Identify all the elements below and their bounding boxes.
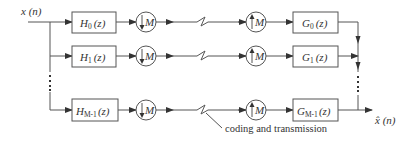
channel-break-0 (173, 17, 246, 26)
output-label: x̂ (n) (374, 114, 396, 127)
svg-text:M: M (254, 16, 265, 28)
annotation-leader-line (206, 113, 222, 128)
svg-text:M: M (144, 104, 155, 116)
svg-text:G0(z): G0(z) (302, 17, 328, 31)
channel-break-m-1 (173, 105, 246, 114)
left-ellipsis-dots (49, 75, 51, 91)
filter-bank-diagram: x (n) H0(z) M M G0(z) (0, 0, 415, 144)
svg-text:G1(z): G1(z) (302, 51, 328, 65)
branch-0: H0(z) M M G0(z) (50, 12, 361, 44)
input-label: x (n) (20, 5, 42, 18)
svg-text:M: M (144, 50, 155, 62)
branch-1: H1(z) M M G1(z) (50, 46, 358, 67)
svg-text:M: M (254, 50, 265, 62)
channel-break-1 (173, 51, 246, 60)
right-ellipsis-dots (357, 76, 359, 92)
channel-annotation: coding and transmission (225, 123, 328, 134)
svg-text:M: M (254, 104, 265, 116)
svg-text:M: M (144, 16, 155, 28)
